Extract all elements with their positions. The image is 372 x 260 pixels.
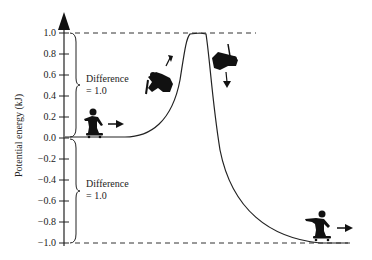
- difference-label-lower: Difference = 1.0: [86, 178, 129, 202]
- skater-rising-icon: [146, 72, 173, 94]
- y-tick-label: 1.0: [26, 28, 56, 38]
- difference-label-upper: Difference = 1.0: [86, 73, 129, 97]
- skater-start-icon: [84, 109, 103, 139]
- y-tick-label: −0.8: [26, 217, 56, 227]
- skater-falling-icon: [212, 44, 238, 70]
- skater-end-icon: [305, 211, 331, 242]
- arrow-right-icon: [108, 120, 124, 128]
- annotation-text: Difference: [86, 73, 129, 85]
- y-tick-label: −0.6: [26, 196, 56, 206]
- y-tick-label: −0.2: [26, 154, 56, 164]
- y-tick-label: −1.0: [26, 238, 56, 248]
- y-axis-arrow-icon: [58, 12, 70, 30]
- y-tick-label: 0.8: [26, 49, 56, 59]
- y-tick-label: 0.2: [26, 112, 56, 122]
- y-tick-label: 0.0: [26, 133, 56, 143]
- annotation-text: Difference: [86, 178, 129, 190]
- y-tick-label: −0.4: [26, 175, 56, 185]
- energy-curve: [65, 33, 348, 243]
- brace-upper: [70, 33, 80, 137]
- y-axis-label: Potential energy (kJ): [13, 86, 24, 186]
- arrow-up-right-icon: [166, 55, 173, 66]
- brace-lower: [70, 139, 80, 243]
- y-tick-label: 0.4: [26, 91, 56, 101]
- y-tick-label: 0.6: [26, 70, 56, 80]
- arrow-right-icon: [337, 224, 353, 232]
- annotation-value: = 1.0: [86, 85, 129, 97]
- arrow-down-icon: [223, 72, 231, 88]
- potential-energy-diagram: 1.0 0.8 0.6 0.4 0.2 0.0 −0.2 −0.4 −0.6 −…: [0, 0, 372, 260]
- annotation-value: = 1.0: [86, 190, 129, 202]
